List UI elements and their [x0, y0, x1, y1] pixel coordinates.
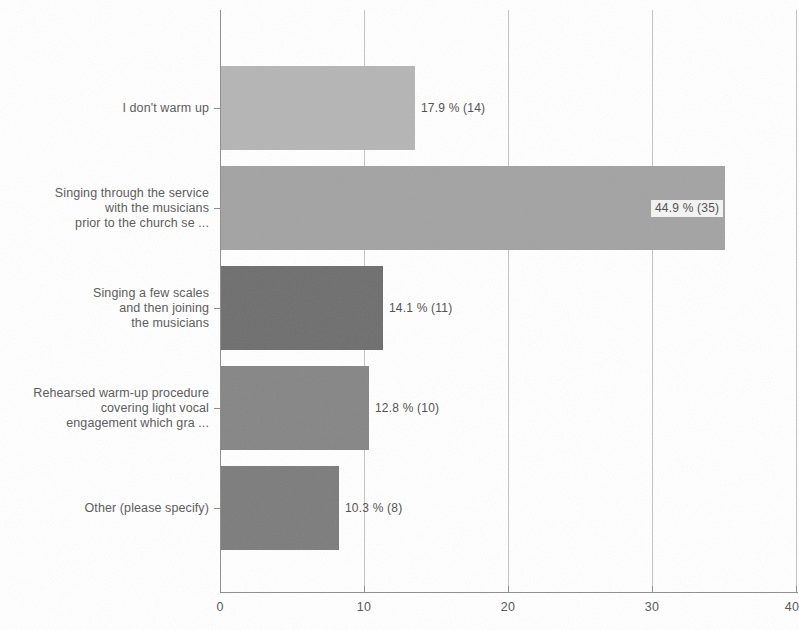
bar-value-label: 12.8 % (10)	[375, 401, 439, 415]
category-label: Rehearsed warm-up procedure covering lig…	[0, 386, 209, 431]
x-tick-label: 40	[785, 600, 799, 614]
bar-value-label: 10.3 % (8)	[345, 501, 402, 515]
bar-value-label: 17.9 % (14)	[421, 101, 485, 115]
horizontal-bar-chart: I don't warm up 17.9 % (14) Singing thro…	[0, 0, 799, 630]
category-label: I don't warm up	[0, 101, 209, 116]
x-tick-label: 20	[501, 600, 515, 614]
x-tick-mark-40	[796, 586, 797, 593]
category-label: Singing through the service with the mus…	[0, 186, 209, 231]
x-axis-line	[220, 592, 798, 593]
bar-value-label: 14.1 % (11)	[389, 301, 452, 315]
x-tick-mark-30	[652, 586, 653, 593]
bar	[221, 66, 415, 150]
x-tick-mark-0	[220, 586, 221, 593]
x-tick-label: 10	[357, 600, 371, 614]
x-tick-label: 30	[645, 600, 659, 614]
x-tick-label: 0	[216, 600, 223, 614]
bar	[221, 366, 369, 450]
bar	[221, 166, 725, 250]
bar	[221, 266, 383, 350]
gridline-20	[508, 10, 509, 592]
x-tick-mark-10	[364, 586, 365, 593]
gridline-30	[652, 10, 653, 592]
category-label: Singing a few scales and then joining th…	[0, 286, 209, 331]
gridline-40	[796, 10, 797, 592]
bar-value-label: 44.9 % (35)	[651, 200, 723, 217]
bar	[221, 466, 339, 550]
category-label: Other (please specify)	[0, 501, 209, 516]
x-tick-mark-20	[508, 586, 509, 593]
